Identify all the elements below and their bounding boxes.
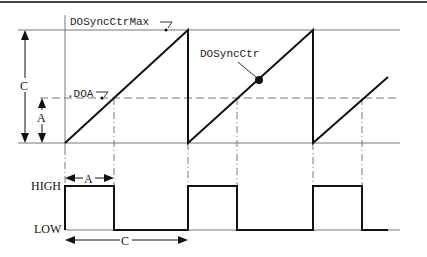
dosync-timing-diagram: DOSyncCtrMax .DOA DOSyncCtr C A HIGH LOW… bbox=[0, 0, 427, 257]
counter-label: DOSyncCtr bbox=[200, 48, 259, 60]
doa-label-pointer bbox=[96, 92, 108, 97]
high-level-label: HIGH bbox=[31, 179, 61, 193]
max-label: DOSyncCtrMax bbox=[70, 16, 150, 28]
max-marker-dot bbox=[165, 29, 168, 32]
max-label-pointer bbox=[160, 22, 172, 28]
sawtooth-counter-waveform bbox=[65, 30, 388, 143]
c-vertical-label: C bbox=[20, 79, 28, 93]
crossing-markers bbox=[65, 98, 362, 186]
a-vertical-label: A bbox=[37, 111, 46, 125]
doa-label: .DOA bbox=[67, 88, 94, 100]
c-horizontal-label: C bbox=[121, 234, 129, 248]
counter-leader bbox=[238, 62, 257, 78]
diagram-canvas: DOSyncCtrMax .DOA DOSyncCtr C A HIGH LOW… bbox=[0, 0, 427, 257]
doa-marker-dot bbox=[101, 97, 104, 100]
a-horizontal-label: A bbox=[84, 172, 93, 186]
low-level-label: LOW bbox=[34, 222, 62, 236]
output-square-waveform bbox=[65, 186, 388, 230]
